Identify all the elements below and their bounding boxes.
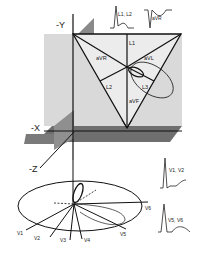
axis-v4 bbox=[74, 204, 82, 239]
label-avf: aVF bbox=[129, 98, 140, 104]
label-avr: aVR bbox=[96, 55, 107, 61]
label-waveform-l1-l2: L1, L2 bbox=[118, 11, 132, 17]
horizontal-vector-path bbox=[74, 204, 125, 225]
label-neg-z: -Z bbox=[29, 164, 38, 174]
label-v1: V1 bbox=[17, 230, 23, 236]
dashed-axis bbox=[54, 203, 74, 204]
label-v3: V3 bbox=[60, 237, 66, 243]
label-v5: V5 bbox=[120, 231, 126, 237]
label-v6: V6 bbox=[145, 205, 151, 211]
axis-v1 bbox=[26, 204, 74, 230]
waveform-v1-v2 bbox=[160, 158, 186, 188]
label-l3: L3 bbox=[142, 84, 148, 90]
ecg-lead-diagram: -Y -X -Z L1 L2 L3 aVR aVL aVF L1, L2 aVR… bbox=[0, 0, 199, 254]
label-waveform-v1-v2: V1, V2 bbox=[169, 167, 184, 173]
label-v2: V2 bbox=[34, 235, 40, 241]
axis-v5 bbox=[74, 204, 126, 229]
axis-v6 bbox=[74, 202, 148, 204]
waveform-l1-l2 bbox=[110, 6, 134, 28]
label-v4: V4 bbox=[84, 237, 90, 243]
label-avl: aVL bbox=[144, 55, 154, 61]
label-l2: L2 bbox=[106, 84, 112, 90]
label-neg-y: -Y bbox=[56, 20, 65, 30]
dashed-axis-2 bbox=[74, 190, 96, 204]
label-waveform-avr: aVR bbox=[152, 15, 162, 21]
label-l1: L1 bbox=[129, 40, 135, 46]
label-neg-x: -X bbox=[31, 123, 40, 133]
label-waveform-v5-v6: V5, V6 bbox=[168, 217, 183, 223]
horizontal-plane-ellipse bbox=[18, 181, 142, 231]
